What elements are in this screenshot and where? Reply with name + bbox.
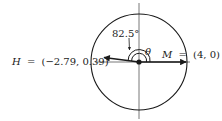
- point-h-name: H: [11, 56, 21, 67]
- point-h-eq: =: [27, 56, 35, 67]
- point-h-label: H = (−2.79, 0.39): [11, 56, 109, 67]
- point-h-coords: (−2.79, 0.39): [42, 56, 109, 67]
- theta-label: θ: [145, 46, 151, 57]
- point-m-name: M: [161, 49, 173, 60]
- origin-dot: [136, 59, 141, 64]
- vector-h-arrow: [104, 58, 139, 63]
- angle-label: 82.5°: [112, 28, 139, 39]
- diagram-canvas: 82.5° θ H = (−2.79, 0.39) M = (4, 0): [0, 0, 222, 121]
- point-m-label: M = (4, 0): [161, 49, 220, 60]
- point-m-eq: =: [178, 49, 186, 60]
- point-m-coords: (4, 0): [193, 49, 220, 60]
- angle-pointer-arrow: [129, 38, 130, 50]
